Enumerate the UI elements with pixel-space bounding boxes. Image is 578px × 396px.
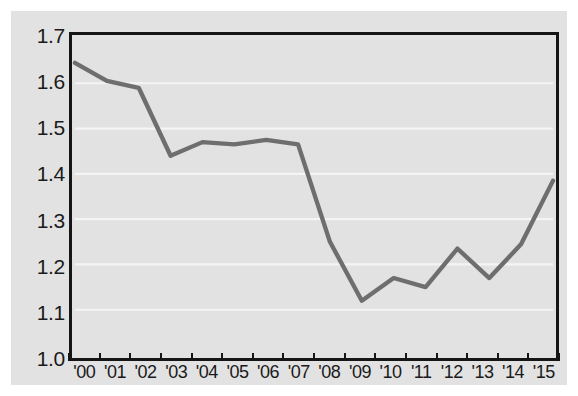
y-axis-tick-label: 1.1	[37, 301, 65, 322]
x-axis-tick-label: '12	[441, 363, 463, 381]
x-axis-tick-mark	[558, 353, 560, 361]
y-axis-tick-label: 1.3	[37, 209, 65, 230]
x-axis-tick-mark	[68, 353, 70, 361]
x-axis-tick-mark	[436, 353, 438, 361]
y-axis-tick-label: 1.4	[37, 163, 65, 184]
x-axis-tick-mark	[313, 353, 315, 361]
x-axis-tick-mark	[527, 353, 529, 361]
chart-figure: 1.01.11.21.31.41.51.61.7 '00'01'02'03'04…	[11, 11, 567, 385]
x-axis-tick-mark	[191, 353, 193, 361]
y-axis-tick-label: 1.5	[37, 117, 65, 138]
x-axis-tick-mark	[160, 353, 162, 361]
x-axis-tick-label: '09	[349, 363, 371, 381]
y-axis-tick-label: 1.7	[37, 25, 65, 46]
y-axis-tick-label: 1.6	[37, 71, 65, 92]
x-axis-tick-mark	[99, 353, 101, 361]
x-axis-tick-label: '15	[533, 363, 555, 381]
x-axis-tick-mark	[466, 353, 468, 361]
x-axis-tick-label: '01	[104, 363, 126, 381]
x-axis-tick-label: '02	[135, 363, 157, 381]
x-axis-tick-label: '05	[226, 363, 248, 381]
x-axis-tick-label: '06	[257, 363, 279, 381]
x-axis-tick-label: '08	[318, 363, 340, 381]
y-axis-labels: 1.01.11.21.31.41.51.61.7	[11, 11, 65, 385]
x-axis-tick-mark	[374, 353, 376, 361]
x-axis-tick-mark	[405, 353, 407, 361]
plot-area	[69, 32, 559, 361]
x-axis-tick-label: '11	[411, 363, 432, 381]
y-axis-tick-label: 1.2	[37, 255, 65, 276]
data-series-line	[72, 35, 556, 358]
x-axis-tick-label: '03	[165, 363, 187, 381]
x-axis-labels: '00'01'02'03'04'05'06'07'08'09'10'11'12'…	[69, 363, 559, 387]
x-axis-tick-mark	[282, 353, 284, 361]
x-axis-tick-label: '07	[288, 363, 310, 381]
x-axis-tick-mark	[497, 353, 499, 361]
x-axis-tick-mark	[221, 353, 223, 361]
x-axis-tick-mark	[129, 353, 131, 361]
x-axis-tick-mark	[252, 353, 254, 361]
x-axis-tick-label: '14	[502, 363, 524, 381]
y-axis-tick-label: 1.0	[37, 348, 65, 369]
x-axis-tick-label: '00	[73, 363, 95, 381]
x-axis-tick-label: '10	[380, 363, 402, 381]
x-axis-ticks	[69, 352, 559, 361]
x-axis-tick-label: '13	[471, 363, 493, 381]
x-axis-tick-mark	[344, 353, 346, 361]
x-axis-tick-label: '04	[196, 363, 218, 381]
